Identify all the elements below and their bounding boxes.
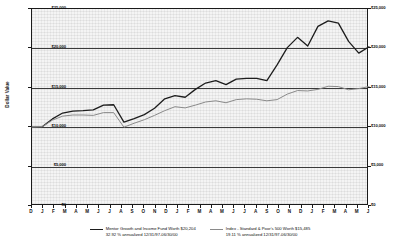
y-axis-tick (28, 166, 31, 167)
x-tick-label: A (209, 209, 212, 214)
x-axis-tick (177, 205, 178, 208)
x-axis-tick (278, 205, 279, 208)
legend-label: Mentor Growth and Income Fund Worth $20,… (106, 226, 196, 238)
chart-legend: Mentor Growth and Income Fund Worth $20,… (0, 226, 400, 238)
x-axis-tick (334, 205, 335, 208)
y-tick-label: $20,000 (371, 45, 397, 49)
x-tick-label: J (232, 209, 235, 214)
y-axis-tick (368, 87, 371, 88)
x-axis-tick (143, 205, 144, 208)
y-tick-label: $0 (371, 203, 397, 207)
x-tick-label: N (288, 209, 291, 214)
x-tick-label: M (355, 209, 359, 214)
x-tick-label: J (243, 209, 246, 214)
x-axis-tick (211, 205, 212, 208)
legend-label: Index - Standard & Poor's 500 Worth $15,… (226, 226, 311, 238)
y-axis-tick (28, 8, 31, 9)
y-axis-tick (368, 166, 371, 167)
y-axis-tick (28, 47, 31, 48)
x-tick-label: M (85, 209, 89, 214)
x-axis-tick (53, 205, 54, 208)
x-axis-tick (346, 205, 347, 208)
x-axis-tick (233, 205, 234, 208)
legend-item: Index - Standard & Poor's 500 Worth $15,… (210, 226, 311, 238)
series-line (32, 86, 369, 127)
x-axis-tick (132, 205, 133, 208)
x-tick-label: M (332, 209, 336, 214)
x-tick-label: J (97, 209, 100, 214)
y-tick-label: $10,000 (371, 124, 397, 128)
legend-label-line2: 32.92 % annualized 12/31/97-06/30/00 (106, 232, 196, 238)
x-tick-label: J (176, 209, 179, 214)
x-axis-tick (98, 205, 99, 208)
x-axis-tick (31, 205, 32, 208)
x-axis-tick (200, 205, 201, 208)
y-tick-label: $10,000 (40, 124, 66, 128)
y-tick-label: $15,000 (40, 85, 66, 89)
x-axis-tick (42, 205, 43, 208)
growth-of-investment-chart: Dollar Value $0$5,000$10,000$15,000$20,0… (0, 0, 400, 250)
x-axis-tick (244, 205, 245, 208)
x-tick-label: J (367, 209, 370, 214)
x-tick-label: A (119, 209, 122, 214)
x-tick-label: J (311, 209, 314, 214)
legend-label-line2: 19.11 % annualized 12/31/97-06/30/00 (226, 232, 311, 238)
y-axis-tick (368, 8, 371, 9)
x-axis-tick (368, 205, 369, 208)
x-axis: DJFMAMJJASONDJFMAMJJASONDJFMAMJ (31, 205, 368, 221)
x-axis-tick (155, 205, 156, 208)
x-axis-tick (222, 205, 223, 208)
x-tick-label: S (265, 209, 268, 214)
x-tick-label: S (131, 209, 134, 214)
x-tick-label: A (254, 209, 257, 214)
x-tick-label: A (74, 209, 77, 214)
x-axis-tick (110, 205, 111, 208)
y-tick-label: $5,000 (371, 163, 397, 167)
y-tick-label: $25,000 (40, 6, 66, 10)
series-line (32, 21, 369, 127)
x-tick-label: D (299, 209, 302, 214)
x-axis-tick (87, 205, 88, 208)
x-axis-tick (323, 205, 324, 208)
y-axis-tick (28, 126, 31, 127)
x-tick-label: F (187, 209, 190, 214)
x-axis-tick (289, 205, 290, 208)
x-tick-label: J (108, 209, 111, 214)
series-lines (32, 9, 369, 206)
x-tick-label: O (142, 209, 146, 214)
y-tick-label: $20,000 (40, 45, 66, 49)
legend-swatch-fund (90, 229, 103, 230)
x-axis-tick (357, 205, 358, 208)
x-axis-tick (256, 205, 257, 208)
y-tick-label: $5,000 (40, 163, 66, 167)
x-tick-label: M (198, 209, 202, 214)
y-axis-tick (368, 126, 371, 127)
x-axis-tick (312, 205, 313, 208)
y-axis-tick (28, 87, 31, 88)
x-axis-tick (188, 205, 189, 208)
x-tick-label: D (29, 209, 32, 214)
x-axis-tick (301, 205, 302, 208)
x-tick-label: J (41, 209, 44, 214)
legend-item: Mentor Growth and Income Fund Worth $20,… (90, 226, 196, 238)
x-tick-label: F (52, 209, 55, 214)
y-tick-label: $15,000 (371, 85, 397, 89)
x-axis-tick (166, 205, 167, 208)
x-tick-label: N (153, 209, 156, 214)
x-tick-label: F (322, 209, 325, 214)
x-tick-label: A (344, 209, 347, 214)
y-axis-title: Dollar Value (5, 81, 10, 107)
x-tick-label: M (220, 209, 224, 214)
x-axis-tick (121, 205, 122, 208)
x-tick-label: D (164, 209, 167, 214)
x-axis-tick (76, 205, 77, 208)
x-tick-label: M (63, 209, 67, 214)
y-axis-tick (368, 47, 371, 48)
x-tick-label: O (276, 209, 280, 214)
x-axis-tick (65, 205, 66, 208)
plot-area (31, 8, 368, 205)
x-axis-tick (267, 205, 268, 208)
y-tick-label: $25,000 (371, 6, 397, 10)
legend-swatch-index (210, 229, 223, 230)
